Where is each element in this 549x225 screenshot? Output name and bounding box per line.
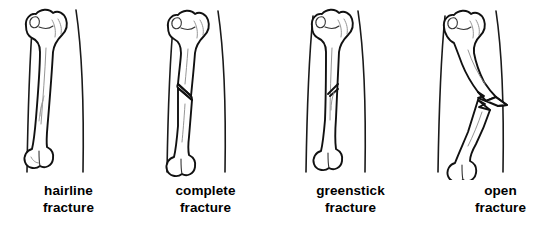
fracture-panel-hairline: hairline fracture [0, 0, 137, 225]
caption-line-2: fracture [137, 199, 274, 216]
leg-outline-left [306, 16, 313, 172]
caption-line-2: fracture [452, 199, 549, 216]
leg-outline-left [438, 16, 445, 172]
femur-upper-fragment [168, 11, 209, 96]
panel-caption: hairline fracture [0, 182, 137, 216]
panel-caption: greenstick fracture [282, 182, 419, 216]
leg-outline-right [496, 11, 503, 172]
caption-line-1: complete [137, 182, 274, 199]
fracture-gap-edge [177, 84, 178, 88]
femur-lower-fragment [447, 100, 490, 180]
caption-line-1: greenstick [282, 182, 419, 199]
fracture-panel-open: open fracture [412, 0, 549, 225]
caption-line-2: fracture [0, 199, 137, 216]
open-fracture-illustration [412, 0, 549, 180]
fracture-panel-complete: complete fracture [137, 0, 274, 225]
panel-caption: complete fracture [137, 182, 274, 216]
caption-line-1: hairline [0, 182, 137, 199]
fracture-panel-greenstick: greenstick fracture [282, 0, 419, 225]
complete-fracture-illustration [137, 0, 274, 180]
caption-line-2: fracture [282, 199, 419, 216]
fracture-gap-edge-2 [191, 96, 192, 100]
leg-outline-right [76, 10, 83, 172]
greenstick-fracture-illustration [282, 0, 419, 180]
leg-outline-right [218, 11, 225, 172]
fracture-types-figure: hairline fracture [0, 0, 549, 225]
panel-caption: open fracture [412, 182, 549, 216]
caption-line-1: open [452, 182, 549, 199]
leg-outline-right [358, 11, 365, 172]
hairline-fracture-illustration [0, 0, 137, 180]
femur-bone [24, 10, 66, 168]
